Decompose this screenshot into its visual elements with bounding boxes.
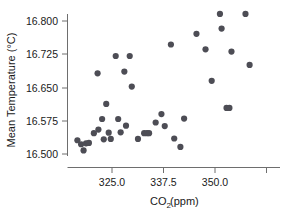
data-point (95, 127, 101, 133)
data-point (146, 130, 152, 136)
data-point (121, 68, 127, 74)
data-point (80, 147, 86, 153)
data-point (127, 53, 133, 59)
data-point (171, 135, 177, 141)
data-point (153, 119, 159, 125)
data-point (162, 123, 168, 129)
x-axis-title: CO 2 (ppm) (150, 195, 199, 210)
x-axis-title-main: CO (150, 195, 167, 207)
data-point (108, 136, 114, 142)
data-point (99, 116, 105, 122)
data-point (226, 105, 232, 111)
data-point (118, 129, 124, 135)
data-point (217, 11, 223, 17)
data-point (123, 123, 129, 129)
x-tick-label: 350.0 (202, 176, 228, 188)
data-point (202, 46, 208, 52)
y-axis-title-text: Mean Temperature (°C) (5, 33, 17, 148)
y-tick-labels: 16.800 16.725 16.650 16.575 16.500 (26, 15, 58, 160)
data-point (209, 78, 215, 84)
x-tick-label: 337.5 (150, 176, 176, 188)
data-point (94, 70, 100, 76)
y-tick-label: 16.575 (26, 115, 58, 127)
y-tick-label: 16.800 (26, 15, 58, 27)
data-point (129, 84, 135, 90)
y-tick-label: 16.650 (26, 82, 58, 94)
x-tick-labels: 325.0 337.5 350.0 (99, 176, 228, 188)
data-point (181, 115, 187, 121)
data-point (228, 48, 234, 54)
plot-canvas: 16.800 16.725 16.650 16.575 16.500 325.0… (0, 0, 284, 213)
data-point (218, 25, 224, 31)
x-tick-label: 325.0 (99, 176, 125, 188)
data-point (101, 136, 107, 142)
data-point (135, 136, 141, 142)
x-axis-title-unit: (ppm) (170, 195, 199, 207)
data-point (168, 41, 174, 47)
data-point (106, 130, 112, 136)
y-tick-label: 16.500 (26, 148, 58, 160)
data-point (177, 144, 183, 150)
data-point (193, 31, 199, 37)
data-point (113, 53, 119, 59)
data-point (86, 140, 92, 146)
data-point (242, 11, 248, 17)
x-tick-marks (112, 168, 267, 174)
scatter-plot-figure: 16.800 16.725 16.650 16.575 16.500 325.0… (0, 0, 284, 213)
data-point (158, 111, 164, 117)
data-point (247, 62, 253, 68)
data-point (103, 101, 109, 107)
data-point (115, 116, 121, 122)
y-axis-title: Mean Temperature (°C) (5, 33, 17, 148)
data-points-layer (74, 11, 252, 154)
y-tick-marks (62, 21, 68, 154)
y-tick-label: 16.725 (26, 48, 58, 60)
